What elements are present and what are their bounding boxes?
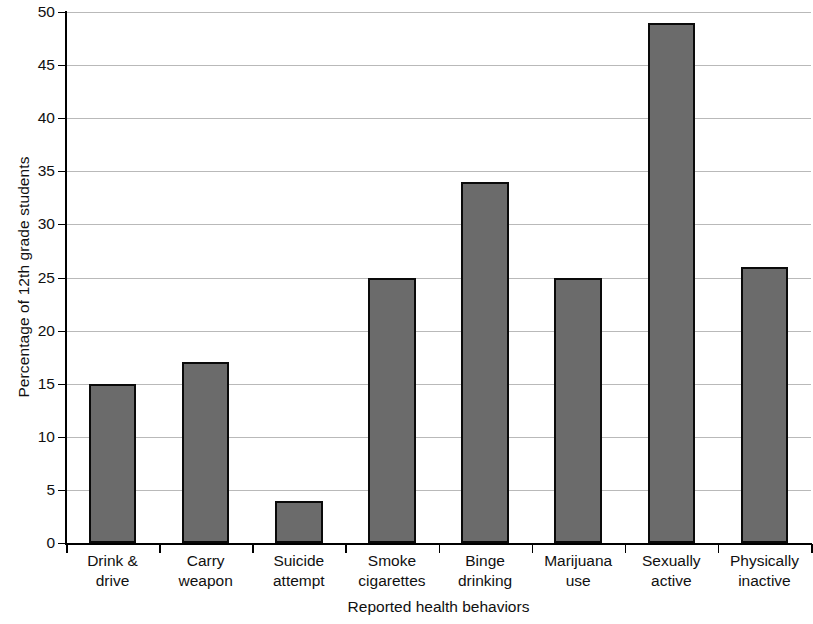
- y-tick-label: 0: [46, 534, 55, 552]
- x-axis-label: Bingedrinking: [439, 551, 532, 590]
- gridline: [66, 65, 811, 66]
- plot-area: 05101520253035404550: [66, 12, 811, 543]
- gridline: [66, 331, 811, 332]
- y-tick-label: 10: [38, 428, 55, 446]
- gridline: [66, 437, 811, 438]
- bar: [554, 278, 601, 544]
- gridline: [66, 118, 811, 119]
- x-axis-label: Smokecigarettes: [345, 551, 438, 590]
- gridline: [66, 278, 811, 279]
- y-tick-label: 20: [38, 322, 55, 340]
- gridline: [66, 490, 811, 491]
- gridline: [66, 12, 811, 13]
- y-tick-label: 50: [38, 3, 55, 21]
- y-tick-label: 25: [38, 269, 55, 287]
- bar-chart: Percentage of 12th grade students 051015…: [0, 0, 813, 624]
- x-axis-label: Marijuanause: [532, 551, 625, 590]
- bar: [461, 182, 508, 543]
- gridline: [66, 384, 811, 385]
- x-axis-title: Reported health behaviors: [66, 598, 811, 616]
- gridline: [66, 224, 811, 225]
- bar: [368, 278, 415, 544]
- x-axis-label: Drink &drive: [66, 551, 159, 590]
- y-tick-label: 15: [38, 375, 55, 393]
- bar: [741, 267, 788, 543]
- y-axis-line: [65, 11, 67, 544]
- x-axis-label: Sexuallyactive: [625, 551, 718, 590]
- y-tick-label: 45: [38, 56, 55, 74]
- bar: [648, 23, 695, 543]
- x-axis-label: Carryweapon: [159, 551, 252, 590]
- bar: [182, 362, 229, 543]
- x-axis-label: Suicideattempt: [252, 551, 345, 590]
- y-tick-label: 5: [46, 481, 55, 499]
- x-tick-mark: [811, 544, 813, 553]
- bar: [89, 384, 136, 543]
- gridline: [66, 171, 811, 172]
- x-axis-line: [65, 543, 812, 545]
- y-tick-label: 30: [38, 215, 55, 233]
- y-tick-label: 40: [38, 109, 55, 127]
- y-tick-label: 35: [38, 162, 55, 180]
- y-axis-title: Percentage of 12th grade students: [15, 67, 33, 487]
- x-axis-label: Physicallyinactive: [718, 551, 811, 590]
- bar: [275, 501, 322, 543]
